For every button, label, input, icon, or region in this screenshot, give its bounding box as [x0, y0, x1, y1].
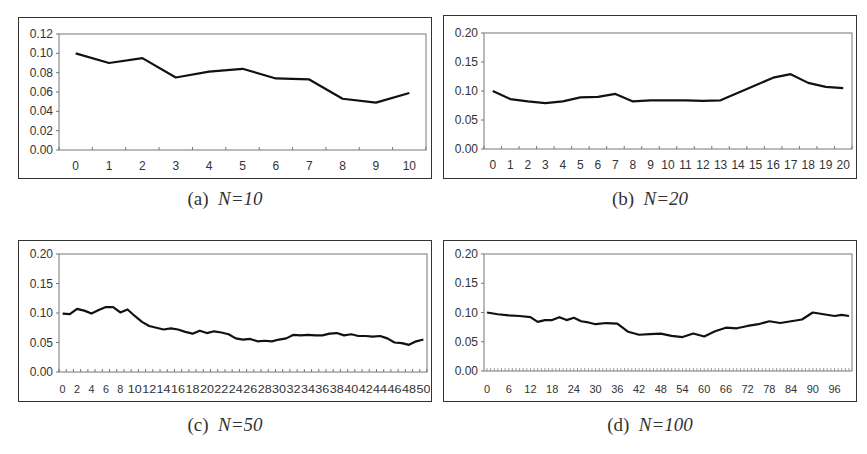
svg-text:0.05: 0.05 — [30, 336, 54, 350]
svg-text:38: 38 — [330, 383, 344, 395]
svg-text:8: 8 — [339, 159, 346, 173]
chart-panel-a: 0.000.020.040.060.080.100.12012345678910 — [18, 17, 432, 179]
svg-text:2: 2 — [74, 383, 80, 395]
svg-text:6: 6 — [103, 383, 109, 395]
svg-text:0.00: 0.00 — [30, 365, 54, 379]
svg-text:26: 26 — [243, 383, 257, 395]
caption-c: (c) N=50 — [75, 414, 375, 436]
svg-text:0.04: 0.04 — [30, 104, 54, 118]
svg-text:48: 48 — [402, 383, 416, 395]
svg-text:5: 5 — [577, 158, 584, 172]
svg-text:0.05: 0.05 — [455, 113, 479, 127]
svg-text:22: 22 — [214, 383, 228, 395]
svg-text:0.08: 0.08 — [30, 66, 54, 80]
caption-b: (b) N=20 — [500, 188, 800, 210]
svg-text:0.00: 0.00 — [30, 143, 54, 157]
line-chart-c: 0.000.050.100.150.2002468101214161820222… — [19, 241, 430, 400]
svg-text:14: 14 — [731, 158, 745, 172]
svg-text:0: 0 — [72, 159, 79, 173]
chart-panel-d: 0.000.050.100.150.2006121824303642485460… — [443, 240, 857, 402]
svg-text:0.10: 0.10 — [30, 46, 54, 60]
svg-text:0.15: 0.15 — [30, 277, 54, 291]
svg-text:4: 4 — [560, 158, 567, 172]
svg-text:6: 6 — [273, 159, 280, 173]
svg-text:28: 28 — [258, 383, 272, 395]
svg-text:44: 44 — [373, 383, 387, 395]
svg-text:24: 24 — [229, 383, 243, 395]
svg-text:42: 42 — [633, 383, 645, 395]
svg-text:8: 8 — [630, 158, 637, 172]
svg-text:16: 16 — [171, 383, 185, 395]
svg-text:8: 8 — [117, 383, 123, 395]
svg-text:6: 6 — [506, 383, 512, 395]
svg-text:0.15: 0.15 — [455, 276, 479, 290]
svg-text:0: 0 — [489, 158, 496, 172]
svg-text:0.10: 0.10 — [455, 84, 479, 98]
svg-text:0.15: 0.15 — [455, 55, 479, 69]
svg-text:90: 90 — [807, 383, 819, 395]
svg-text:15: 15 — [749, 158, 763, 172]
line-chart-a: 0.000.020.040.060.080.100.12012345678910 — [19, 18, 430, 177]
caption-d-n: N=100 — [639, 414, 693, 435]
svg-text:78: 78 — [763, 383, 775, 395]
svg-text:10: 10 — [403, 159, 417, 173]
svg-text:6: 6 — [595, 158, 602, 172]
svg-text:46: 46 — [388, 383, 402, 395]
svg-text:42: 42 — [359, 383, 373, 395]
line-chart-d: 0.000.050.100.150.2006121824303642485460… — [444, 241, 855, 400]
svg-text:20: 20 — [200, 383, 214, 395]
caption-c-n: N=50 — [218, 414, 263, 435]
caption-b-label: (b) — [612, 188, 634, 209]
svg-text:1: 1 — [106, 159, 113, 173]
svg-text:12: 12 — [696, 158, 710, 172]
svg-text:0.02: 0.02 — [30, 124, 54, 138]
svg-text:5: 5 — [239, 159, 246, 173]
svg-text:12: 12 — [524, 383, 536, 395]
svg-text:0.06: 0.06 — [30, 85, 54, 99]
svg-text:13: 13 — [714, 158, 728, 172]
svg-text:18: 18 — [546, 383, 558, 395]
svg-text:0: 0 — [60, 383, 66, 395]
svg-text:18: 18 — [185, 383, 199, 395]
svg-text:11: 11 — [679, 158, 692, 172]
svg-text:30: 30 — [589, 383, 601, 395]
svg-text:0.00: 0.00 — [455, 142, 479, 156]
svg-text:60: 60 — [698, 383, 710, 395]
svg-text:0.05: 0.05 — [455, 335, 479, 349]
svg-text:7: 7 — [306, 159, 313, 173]
svg-text:36: 36 — [611, 383, 623, 395]
caption-d-label: (d) — [607, 414, 629, 435]
line-chart-b: 0.000.050.100.150.2001234567891011121314… — [444, 16, 855, 177]
svg-text:16: 16 — [766, 158, 780, 172]
svg-text:54: 54 — [676, 383, 688, 395]
svg-text:19: 19 — [819, 158, 833, 172]
svg-text:84: 84 — [785, 383, 797, 395]
svg-text:32: 32 — [287, 383, 301, 395]
svg-text:14: 14 — [157, 383, 171, 395]
svg-text:4: 4 — [206, 159, 213, 173]
svg-text:0.20: 0.20 — [455, 247, 479, 261]
caption-d: (d) N=100 — [500, 414, 800, 436]
svg-text:20: 20 — [837, 158, 851, 172]
svg-text:40: 40 — [344, 383, 358, 395]
caption-a: (a) N=10 — [75, 188, 375, 210]
caption-a-label: (a) — [187, 188, 208, 209]
svg-text:7: 7 — [612, 158, 619, 172]
svg-text:0.20: 0.20 — [455, 26, 479, 40]
svg-text:9: 9 — [373, 159, 380, 173]
svg-text:0.20: 0.20 — [30, 247, 54, 261]
svg-text:24: 24 — [568, 383, 580, 395]
svg-text:2: 2 — [139, 159, 146, 173]
svg-text:72: 72 — [742, 383, 754, 395]
svg-text:12: 12 — [142, 383, 156, 395]
svg-text:18: 18 — [802, 158, 816, 172]
chart-panel-c: 0.000.050.100.150.2002468101214161820222… — [18, 240, 432, 402]
svg-text:0.12: 0.12 — [30, 27, 54, 41]
svg-text:4: 4 — [88, 383, 94, 395]
svg-text:3: 3 — [542, 158, 549, 172]
svg-text:96: 96 — [828, 383, 840, 395]
chart-panel-b: 0.000.050.100.150.2001234567891011121314… — [443, 15, 857, 179]
svg-text:34: 34 — [301, 383, 315, 395]
svg-text:10: 10 — [128, 383, 142, 395]
svg-text:48: 48 — [655, 383, 667, 395]
